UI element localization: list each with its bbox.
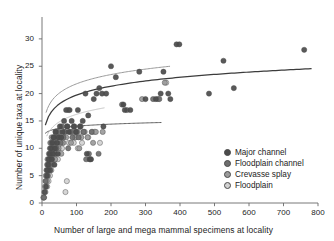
data-point: [55, 151, 60, 156]
data-point: [50, 140, 55, 145]
data-point: [59, 135, 64, 140]
data-point: [94, 91, 99, 96]
plot-canvas: [0, 0, 334, 241]
data-point: [63, 189, 68, 194]
data-point: [73, 129, 78, 134]
x-tick-label: 300: [133, 208, 159, 217]
data-point: [51, 135, 56, 140]
data-point: [91, 96, 96, 101]
data-point: [55, 140, 60, 145]
y-tick-label: 25: [16, 61, 34, 70]
data-point: [44, 173, 49, 178]
data-point: [158, 91, 163, 96]
data-point: [97, 86, 102, 91]
data-point: [113, 75, 118, 80]
data-point: [70, 135, 75, 140]
data-point: [52, 162, 57, 167]
trend-curve: [45, 69, 311, 125]
legend-marker-icon: [224, 171, 231, 178]
data-point: [42, 189, 47, 194]
data-point: [77, 124, 82, 129]
x-tick-label: 0: [29, 208, 55, 217]
y-tick-label: 15: [16, 116, 34, 125]
data-point: [162, 80, 167, 85]
data-point: [101, 124, 106, 129]
data-point: [121, 102, 126, 107]
x-tick-label: 200: [98, 208, 124, 217]
legend-label: Floodplain: [235, 180, 273, 191]
trend-curve: [46, 66, 170, 112]
data-point: [75, 107, 80, 112]
data-point: [166, 91, 171, 96]
scatter-plot-figure: Number of unique taxa at locality Number…: [0, 0, 334, 241]
data-point: [43, 179, 48, 184]
x-tick-label: 400: [167, 208, 193, 217]
data-point: [137, 69, 142, 74]
data-point: [46, 162, 51, 167]
data-point: [128, 107, 133, 112]
data-point: [302, 47, 307, 52]
data-point: [57, 124, 62, 129]
chart-legend: Major channelFloodplain channelCrevasse …: [224, 147, 304, 191]
legend-marker-icon: [224, 160, 231, 167]
data-point: [85, 135, 90, 140]
x-tick-label: 700: [271, 208, 297, 217]
data-point: [177, 42, 182, 47]
data-point: [79, 140, 84, 145]
x-tick-label: 500: [202, 208, 228, 217]
data-point: [77, 146, 82, 151]
data-point: [69, 118, 74, 123]
legend-marker-icon: [224, 149, 231, 156]
data-point: [206, 91, 211, 96]
data-point: [49, 157, 54, 162]
data-point: [90, 140, 95, 145]
data-point: [66, 146, 71, 151]
data-point: [84, 151, 89, 156]
legend-label: Major channel: [235, 147, 286, 158]
data-point: [60, 129, 65, 134]
x-tick-label: 800: [305, 208, 331, 217]
data-point: [161, 69, 166, 74]
data-point: [83, 91, 88, 96]
data-point: [61, 118, 66, 123]
data-point: [81, 129, 86, 134]
x-tick-label: 100: [64, 208, 90, 217]
y-tick-label: 10: [16, 143, 34, 152]
data-point: [67, 107, 72, 112]
data-point: [76, 135, 81, 140]
y-tick-label: 30: [16, 34, 34, 43]
legend-item: Crevasse splay: [224, 169, 304, 180]
data-point: [231, 86, 236, 91]
y-tick-label: 5: [16, 171, 34, 180]
data-point: [97, 140, 102, 145]
data-point: [44, 184, 49, 189]
data-point: [53, 129, 58, 134]
data-point: [50, 151, 55, 156]
legend-item: Floodplain channel: [224, 158, 304, 169]
legend-label: Floodplain channel: [235, 158, 304, 169]
data-point: [88, 157, 93, 162]
data-point: [221, 58, 226, 63]
legend-marker-icon: [224, 182, 231, 189]
data-point: [86, 113, 91, 118]
data-point: [104, 91, 109, 96]
data-point: [168, 96, 173, 101]
data-point: [66, 129, 71, 134]
legend-label: Crevasse splay: [235, 169, 291, 180]
x-axis-label: Number of large and mega mammal specimen…: [54, 225, 273, 235]
legend-item: Major channel: [224, 147, 304, 158]
data-point: [89, 129, 94, 134]
x-tick-label: 600: [236, 208, 262, 217]
data-point: [108, 64, 113, 69]
data-point: [100, 129, 105, 134]
data-point: [80, 118, 85, 123]
y-tick-label: 0: [16, 198, 34, 207]
data-point: [143, 96, 148, 101]
data-point: [122, 107, 127, 112]
y-tick-label: 20: [16, 89, 34, 98]
data-point: [64, 179, 69, 184]
data-point: [65, 124, 70, 129]
data-point: [71, 124, 76, 129]
data-point: [96, 151, 101, 156]
legend-item: Floodplain: [224, 180, 304, 191]
